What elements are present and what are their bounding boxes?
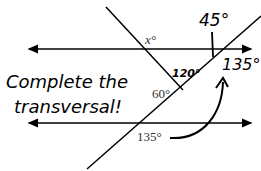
angle-60-label: 60° [152,86,170,101]
angle-45-label: 45° [199,10,229,30]
handwritten-line-2: transversal! [14,96,122,117]
angle-120-label: 120° [172,67,200,80]
angle-135-top-label: 135° [222,55,261,74]
diagram-svg: x° 60° 135° 120° 135° 45° Complete the t… [0,0,261,171]
geometry-diagram: x° 60° 135° 120° 135° 45° Complete the t… [0,0,261,171]
transversal-line [87,16,261,169]
handwritten-line-1: Complete the [6,71,128,92]
curved-arrow [170,82,223,138]
x-angle-label: x° [144,32,156,47]
angle-135-bottom-label: 135° [137,129,162,144]
label-pointer-45 [212,32,213,57]
